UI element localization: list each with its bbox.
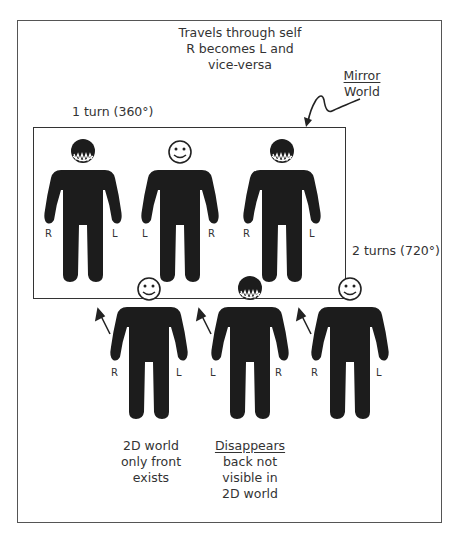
back-of-head-icon bbox=[71, 139, 95, 163]
figures-layer: R L L R R L R L L R R L bbox=[0, 0, 462, 544]
label-right: L bbox=[176, 367, 182, 378]
bottom-figure-3: R L bbox=[311, 278, 389, 419]
smiley-face-icon bbox=[138, 278, 160, 300]
smiley-face-icon bbox=[339, 278, 361, 300]
top-figure-2: L R bbox=[141, 141, 218, 282]
label-right: R bbox=[208, 228, 215, 239]
squiggle-arrow-icon bbox=[304, 96, 360, 127]
label-left: L bbox=[210, 367, 216, 378]
label-left: R bbox=[243, 228, 250, 239]
label-right: L bbox=[112, 228, 118, 239]
bottom-figure-1: R L bbox=[110, 278, 187, 419]
label-left: L bbox=[142, 228, 148, 239]
label-left: R bbox=[111, 367, 118, 378]
label-right: L bbox=[309, 228, 315, 239]
back-of-head-icon bbox=[238, 276, 262, 300]
top-figure-3: R L bbox=[243, 139, 321, 282]
label-left: R bbox=[45, 228, 52, 239]
label-left: R bbox=[311, 367, 318, 378]
bottom-figure-2: L R bbox=[210, 276, 289, 419]
label-right: L bbox=[376, 367, 382, 378]
label-right: R bbox=[275, 367, 282, 378]
smiley-face-icon bbox=[169, 141, 191, 163]
top-figure-1: R L bbox=[44, 139, 121, 282]
back-of-head-icon bbox=[270, 139, 294, 163]
